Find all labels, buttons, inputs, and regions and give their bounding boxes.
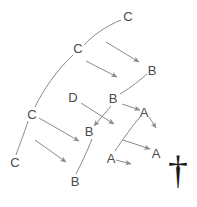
node-label-a-upper: A	[140, 106, 149, 119]
arrow-b-middle-to-down-left	[94, 106, 111, 126]
curve-a-lower-to-a-upper	[115, 117, 140, 151]
arrow-left-to-lower	[35, 140, 66, 162]
curve-c-left-to-c-bottom	[16, 121, 28, 155]
node-label-a-lower: A	[107, 152, 116, 165]
curve-b-middle-to-b-upper	[120, 74, 147, 94]
arrow-c-upper-to-b-upper-right	[106, 42, 139, 62]
arrow-c-left-to-b-lower	[39, 118, 79, 141]
node-label-c-bottom: C	[10, 156, 19, 169]
node-label-b-bottom: B	[71, 175, 80, 188]
node-label-c-upper: C	[73, 42, 82, 55]
cross-icon: †	[168, 150, 188, 190]
arrow-a-lower-to-right	[116, 160, 131, 164]
node-label-c-top: C	[123, 10, 132, 23]
arrow-mid-to-a-right	[123, 140, 150, 149]
node-label-c-left: C	[27, 108, 36, 121]
curve-b-lower-to-b-bottom	[76, 139, 92, 174]
curve-c-upper-to-c-left	[35, 55, 73, 107]
node-label-b-lower-mid: B	[85, 125, 94, 138]
node-label-b-middle: B	[109, 92, 118, 105]
node-label-b-upper-right: B	[148, 64, 157, 77]
curve-c-top-to-c-upper	[84, 20, 121, 45]
arrow-b-middle-to-a-upper	[122, 104, 140, 110]
arrow-d-to-right	[81, 103, 114, 124]
node-label-a-right: A	[152, 147, 161, 160]
arrow-a-upper-to-down-right	[149, 117, 156, 128]
connector-arrow-layer	[35, 42, 156, 164]
node-label-d-middle: D	[68, 91, 77, 104]
arrow-c-upper-to-b-middle	[86, 61, 117, 77]
lineage-diagram: CCBDBCABAACB †	[0, 0, 197, 207]
